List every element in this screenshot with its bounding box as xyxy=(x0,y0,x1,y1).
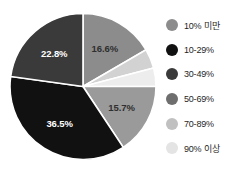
legend-item-label: 10-29% xyxy=(184,45,214,55)
legend-swatch-icon xyxy=(166,118,178,130)
pie-slice-group xyxy=(10,14,156,160)
legend-item-label: 10% 미만 xyxy=(184,19,219,32)
pie-slice-value-label: 16.6% xyxy=(92,43,119,54)
pie-chart-figure: 16.6%15.7%36.5%22.8% 10% 미만10-29%30-49%5… xyxy=(0,0,238,171)
legend-item[interactable]: 50-69% xyxy=(166,87,238,112)
chart-legend: 10% 미만10-29%30-49%50-69%70-89%90% 이상 xyxy=(166,13,238,161)
pie-slice-value-label: 36.5% xyxy=(46,118,73,129)
legend-swatch-icon xyxy=(166,142,178,154)
legend-item-label: 50-69% xyxy=(184,94,214,104)
legend-item-label: 90% 이상 xyxy=(184,142,219,155)
pie-svg: 16.6%15.7%36.5%22.8% xyxy=(9,9,157,162)
legend-swatch-icon xyxy=(166,19,178,31)
legend-item[interactable]: 10% 미만 xyxy=(166,13,238,38)
legend-swatch-icon xyxy=(166,68,178,80)
pie-slice-value-label: 15.7% xyxy=(108,102,135,113)
legend-item-label: 70-89% xyxy=(184,119,214,129)
legend-item[interactable]: 10-29% xyxy=(166,38,238,63)
legend-item[interactable]: 30-49% xyxy=(166,62,238,87)
legend-swatch-icon xyxy=(166,93,178,105)
legend-item[interactable]: 70-89% xyxy=(166,111,238,136)
pie-slice-value-label: 22.8% xyxy=(41,48,68,59)
legend-item[interactable]: 90% 이상 xyxy=(166,136,238,161)
legend-swatch-icon xyxy=(166,44,178,56)
legend-item-label: 30-49% xyxy=(184,69,214,79)
pie-plot-area: 16.6%15.7%36.5%22.8% xyxy=(9,9,157,162)
